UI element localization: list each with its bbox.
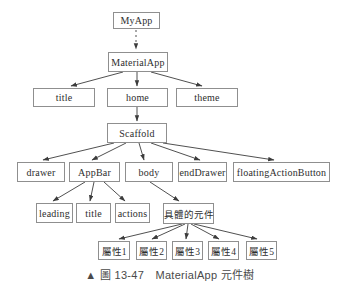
- node-drawer: drawer: [17, 162, 65, 182]
- node-attr4: 屬性4: [208, 241, 239, 260]
- node-specific-widget: 具體的元件: [163, 203, 214, 224]
- edge-scaffold-fab: [163, 143, 274, 160]
- node-attr5: 屬性5: [246, 241, 277, 260]
- node-attr2: 屬性2: [136, 241, 167, 260]
- node-theme: theme: [176, 88, 238, 107]
- node-body: body: [125, 162, 173, 182]
- edge-appbar-actions: [104, 182, 125, 201]
- node-appbar: AppBar: [69, 162, 120, 182]
- node-myapp: MyApp: [113, 12, 160, 29]
- materialapp-widget-tree-figure: MyApp MaterialApp title home theme Scaff…: [0, 0, 340, 285]
- edge-scaffold-enddrawer: [151, 143, 200, 160]
- edge-specific-attr1: [119, 224, 182, 239]
- node-scaffold: Scaffold: [107, 123, 167, 143]
- node-attr3: 屬性3: [172, 241, 203, 260]
- edge-specific-attr3: [186, 224, 188, 239]
- node-materialapp: MaterialApp: [108, 52, 168, 72]
- edge-materialapp-theme: [151, 72, 202, 86]
- node-home: home: [107, 88, 168, 107]
- edge-specific-attr5: [194, 224, 257, 239]
- edge-scaffold-appbar: [92, 143, 126, 160]
- edge-specific-attr2: [152, 224, 185, 239]
- node-actions: actions: [115, 203, 150, 223]
- node-leading: leading: [36, 203, 73, 223]
- edge-materialapp-title: [71, 72, 123, 86]
- edge-appbar-title: [90, 182, 94, 201]
- edge-appbar-leading: [53, 182, 85, 201]
- edge-scaffold-body: [139, 143, 144, 160]
- node-title-prop: title: [33, 88, 95, 107]
- node-attr1: 屬性1: [98, 241, 130, 260]
- tree-connector-lines: [0, 0, 340, 285]
- edge-body-specific: [150, 182, 179, 201]
- node-enddrawer: endDrawer: [178, 162, 227, 182]
- edge-scaffold-drawer: [43, 143, 114, 160]
- node-floating-action-button: floatingActionButton: [233, 162, 330, 182]
- node-appbar-title: title: [76, 203, 111, 223]
- figure-caption: ▲ 圖 13-47 MaterialApp 元件樹: [0, 266, 340, 282]
